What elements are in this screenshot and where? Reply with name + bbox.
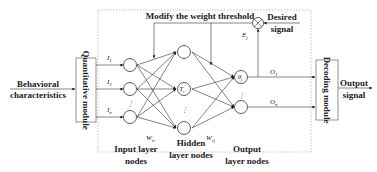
- input-ellipsis: ⋮: [127, 100, 134, 108]
- quantitative-module-label: Quantitative module: [81, 50, 91, 129]
- output-ellipsis: ⋮: [238, 92, 245, 100]
- input-label-2: I2: [106, 78, 112, 87]
- input-layer-label-2: nodes: [125, 156, 148, 166]
- hidden-output-edges: [192, 52, 234, 128]
- input-label-n: In: [106, 106, 112, 115]
- behavioral-label-line2: characteristics: [10, 90, 66, 100]
- input-label-1: I1: [106, 54, 112, 63]
- hidden-node-1: [178, 46, 191, 59]
- output-signal-line1: Output: [340, 78, 368, 88]
- output-label-n: On: [270, 98, 278, 107]
- output-layer-label-1: Output: [233, 144, 261, 154]
- hidden-ellipsis: ⋮: [181, 106, 188, 114]
- input-layer-label-1: Input layer: [114, 144, 157, 154]
- input-node-1: [124, 59, 137, 72]
- hidden-layer-label-2: layer nodes: [169, 150, 213, 160]
- desired-signal-line2: signal: [271, 24, 294, 34]
- weight-label-rj: Wrj: [206, 134, 216, 143]
- output-node-n: [235, 101, 248, 114]
- desired-signal-line1: Desired: [267, 12, 296, 22]
- weight-label-ir: Wir: [146, 134, 155, 143]
- input-hidden-edges: [137, 52, 176, 128]
- output-signal-line2: signal: [343, 90, 366, 100]
- hidden-layer-label-1: Hidden: [177, 138, 206, 148]
- input-node-n: [124, 111, 137, 124]
- decoding-module-label: Decoding module: [322, 57, 332, 124]
- neural-network-diagram: Quantitative module Decoding module Beha…: [0, 0, 377, 172]
- error-label: Ej: [241, 31, 248, 40]
- hidden-node-n: [178, 122, 191, 135]
- modify-weight-label: Modify the weight threshold: [146, 11, 255, 21]
- output-layer-label-2: layer nodes: [225, 156, 269, 166]
- output-label-1: O1: [270, 68, 278, 77]
- input-node-2: [124, 83, 137, 96]
- behavioral-label-line1: Behavioral: [17, 79, 59, 89]
